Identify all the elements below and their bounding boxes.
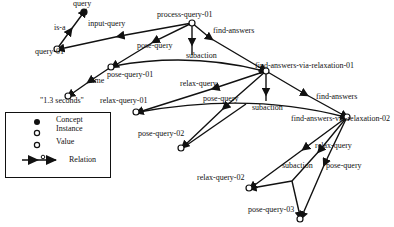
edge-label-find-answers-1: find-answers xyxy=(213,27,254,35)
legend-value-icon xyxy=(34,142,39,147)
node-query xyxy=(81,9,87,15)
node-process-query-01 xyxy=(189,20,195,26)
edge-label-relax-query-2: relax-query xyxy=(315,142,352,150)
legend-instance-label: Instance xyxy=(56,125,83,133)
edge-label-subaction-2: subaction xyxy=(252,104,283,112)
edge-label-pose-query-3: pose-query xyxy=(326,162,362,170)
legend-instance-icon xyxy=(34,130,39,135)
legend-concept-icon xyxy=(34,119,40,125)
edge-label-relax-query-1: relax-query xyxy=(180,80,217,88)
legend-concept-label: Concept xyxy=(56,116,83,124)
edge-label-time: time xyxy=(90,77,104,85)
edge-label-pose-query-1: pose-query xyxy=(137,42,173,50)
label-relax-query-01: relax-query-01 xyxy=(100,97,148,105)
label-far-01: find-answers-via-relaxation-01 xyxy=(255,62,354,70)
edge-label-subaction-3: subaction xyxy=(282,162,313,170)
node-relax-query-02 xyxy=(246,185,252,191)
label-pose-query-03: pose-query-03 xyxy=(248,206,294,214)
label-query-01: query-01 xyxy=(35,48,64,56)
label-process-query-01: process-query-01 xyxy=(157,11,213,19)
label-relax-query-02: relax-query-02 xyxy=(197,174,245,182)
label-query: query xyxy=(73,0,91,8)
node-relax-query-01 xyxy=(133,109,139,115)
edge-subaction-2b xyxy=(184,104,246,147)
legend-value-label: Value xyxy=(56,138,74,146)
label-pose-query-02: pose-query-02 xyxy=(138,130,184,138)
label-pose-query-01: pose-query-01 xyxy=(107,71,153,79)
edge-label-pose-query-2: pose-query xyxy=(203,95,239,103)
label-1-3-seconds: "1.3 seconds" xyxy=(40,97,84,105)
edge-label-find-answers-2: find-answers xyxy=(316,93,357,101)
edge-label-is-a: is-a xyxy=(54,24,66,32)
legend-relation-arrow-icon xyxy=(22,155,57,165)
edge-relax-query-2 xyxy=(252,117,347,187)
edge-label-subaction-1: subaction xyxy=(186,52,217,60)
node-pose-query-02 xyxy=(178,145,184,151)
legend-relation-label: Relation xyxy=(69,156,96,164)
node-pose-query-03 xyxy=(297,216,303,222)
legend: Concept Instance Value Relation xyxy=(5,112,111,178)
edge-relax-query-1 xyxy=(139,71,266,112)
label-far-02: find-answers-via-relaxation-02 xyxy=(291,115,390,123)
edge-label-input-query: input-query xyxy=(88,20,125,28)
